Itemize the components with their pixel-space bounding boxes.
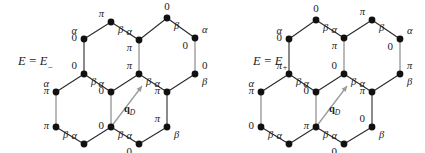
lattice-site-dot: [108, 124, 115, 131]
lattice-bond: [344, 127, 372, 144]
lattice-bond: [372, 74, 400, 92]
site-sublattice-label: β: [350, 76, 357, 87]
lattice-site: πβ: [360, 6, 385, 33]
site-sublattice-label: α: [303, 78, 309, 89]
site-sublattice-label: α: [407, 25, 413, 36]
lattice-bond: [111, 74, 139, 92]
lattice-bond: [261, 74, 289, 92]
energy-label-right: E = E+: [253, 54, 288, 71]
lattice-site-dot: [341, 35, 348, 42]
site-phase-label: π: [127, 42, 133, 53]
figure-container: qDπβ0β0απα0α0βπβ0βπα0απαπβ0βπβπα0αqD0βπβ…: [0, 0, 425, 153]
site-phase-label: π: [99, 8, 105, 19]
lattice-site: πβ: [397, 60, 413, 87]
honeycomb-lattice-figure: qDπβ0β0απα0α0βπβ0βπα0απαπβ0βπβπα0αqD0βπβ…: [0, 0, 425, 153]
site-sublattice-label: β: [145, 76, 152, 87]
site-phase-label: π: [304, 120, 310, 131]
lattice-site-dot: [164, 15, 171, 22]
site-phase-label: π: [407, 60, 413, 71]
site-sublattice-label: β: [173, 20, 180, 31]
site-sublattice-label: α: [43, 78, 49, 89]
lattice-site-dot: [313, 124, 320, 131]
lattice-site-dot: [81, 36, 88, 43]
site-phase-label: π: [360, 6, 366, 17]
energy-subscript-left: −: [48, 62, 53, 72]
lattice-site-dot: [397, 36, 404, 43]
lattice-bond: [84, 127, 111, 144]
qd-subscript: D: [334, 108, 341, 117]
site-phase-label: 0: [388, 40, 394, 52]
site-sublattice-label: β: [295, 76, 302, 87]
lattice-site-dot: [81, 141, 88, 148]
site-sublattice-label: α: [331, 130, 337, 141]
lattice-bond: [167, 18, 195, 38]
right-panel: qD0βπβ0απα0απβ0βπβπα0απα0βπβ0βπα0α: [248, 2, 413, 153]
energy-label-left: E = E−: [18, 54, 53, 71]
lattice-site: πα: [331, 24, 347, 51]
site-sublattice-label: β: [201, 76, 208, 87]
lattice-site: πα: [126, 26, 142, 53]
lattice-site-dot: [258, 124, 265, 131]
lattice-site-dot: [369, 17, 376, 24]
lattice-bond: [289, 20, 316, 39]
lattice-site-dot: [313, 89, 320, 96]
site-phase-label: π: [155, 113, 161, 124]
lattice-site: 0α: [303, 78, 319, 96]
site-phase-label: 0: [249, 119, 255, 131]
lattice-site: 0β: [192, 59, 208, 87]
lattice-bond: [261, 127, 289, 144]
lattice-bond: [316, 74, 344, 92]
lattice-bond: [289, 127, 316, 144]
site-sublattice-label: β: [62, 129, 69, 140]
lattice-site-dot: [192, 35, 199, 42]
lattice-site-dot: [164, 89, 171, 96]
site-sublattice-label: α: [154, 78, 160, 89]
lattice-site: 0β: [164, 0, 180, 31]
lattice-site-dot: [108, 89, 115, 96]
lattice-site: 0α: [98, 78, 114, 96]
lattice-site-dot: [136, 37, 143, 44]
lattice-bond: [139, 74, 167, 92]
site-sublattice-label: β: [90, 76, 97, 87]
site-sublattice-label: α: [71, 25, 77, 36]
lattice-bond: [139, 18, 167, 40]
site-phase-label: π: [81, 149, 87, 153]
site-sublattice-label: α: [98, 78, 104, 89]
lattice-bond: [344, 20, 372, 38]
qd-subscript: D: [129, 108, 136, 117]
lattice-bond: [139, 127, 167, 144]
site-sublattice-label: α: [202, 24, 208, 35]
qd-label: qD: [329, 103, 341, 117]
lattice-site-dot: [192, 71, 199, 78]
site-phase-label: 0: [72, 59, 78, 71]
lattice-bond: [111, 127, 139, 144]
lattice-site-dot: [341, 141, 348, 148]
site-sublattice-label: β: [117, 129, 124, 140]
lattice-site: 0α: [71, 25, 87, 43]
lattice-bond: [111, 22, 139, 40]
site-phase-label: π: [332, 40, 338, 51]
site-sublattice-label: α: [331, 24, 337, 35]
site-phase-label: 0: [332, 145, 338, 153]
site-sublattice-label: β: [406, 76, 413, 87]
lattice-site: πα: [359, 78, 375, 96]
site-sublattice-label: β: [267, 129, 274, 140]
site-sublattice-label: α: [71, 130, 77, 141]
site-phase-label: 0: [332, 59, 338, 71]
lattice-site: πα: [154, 78, 170, 96]
lattice-site-dot: [53, 89, 60, 96]
site-sublattice-label: α: [126, 130, 132, 141]
site-sublattice-label: α: [359, 78, 365, 89]
lattice-site-dot: [81, 71, 88, 78]
site-sublattice-label: β: [322, 22, 329, 33]
lattice-site: 0α: [276, 25, 292, 43]
lattice-site-dot: [53, 124, 60, 131]
lattice-bond: [316, 127, 344, 144]
lattice-site-dot: [258, 89, 265, 96]
lattice-bond: [167, 74, 195, 92]
site-sublattice-label: β: [322, 129, 329, 140]
site-phase-label: 0: [183, 39, 189, 51]
lattice-site-dot: [369, 89, 376, 96]
lattice-site-dot: [369, 124, 376, 131]
lattice-site: πα: [43, 78, 59, 96]
